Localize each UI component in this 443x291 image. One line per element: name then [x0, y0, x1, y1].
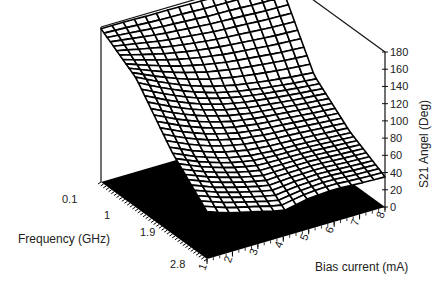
- surface-chart: 020406080100120140160180 0.111.92.8 1234…: [0, 0, 443, 291]
- z-tick-label: 180: [390, 46, 408, 58]
- z-tick-label: 160: [390, 63, 408, 75]
- z-tick-label: 100: [390, 115, 408, 127]
- z-tick-label: 80: [390, 132, 402, 144]
- z-axis: 020406080100120140160180: [382, 46, 408, 213]
- bias-axis-label: Bias current (mA): [315, 260, 408, 274]
- z-tick-label: 120: [390, 98, 408, 110]
- frequency-tick-label: 1.9: [140, 226, 155, 238]
- frequency-tick-label: 0.1: [62, 193, 77, 205]
- z-tick-label: 0: [390, 201, 396, 213]
- frequency-tick-label: 2.8: [170, 258, 185, 270]
- z-tick-label: 140: [390, 80, 408, 92]
- chart-canvas: 020406080100120140160180 0.111.92.8 1234…: [0, 0, 443, 291]
- z-axis-label: S21 Angel (Deg): [417, 100, 431, 188]
- z-tick-label: 20: [390, 184, 402, 196]
- z-tick-label: 40: [390, 167, 402, 179]
- frequency-axis-label: Frequency (GHz): [18, 232, 110, 246]
- z-tick-label: 60: [390, 149, 402, 161]
- frequency-tick-label: 1: [104, 209, 110, 221]
